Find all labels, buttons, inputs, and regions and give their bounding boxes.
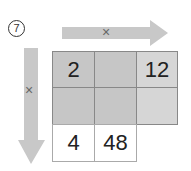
grid-cell: 48 [94, 124, 137, 162]
grid-cell [94, 87, 137, 125]
grid-cell [136, 87, 178, 125]
grid-cell: 4 [52, 124, 95, 162]
multiply-sign-horizontal: × [102, 24, 110, 40]
multiply-sign-vertical: × [25, 82, 33, 98]
right-arrow-icon [62, 20, 170, 48]
grid-cell [94, 51, 137, 88]
grid-cell [52, 87, 95, 125]
grid-cell: 12 [136, 51, 178, 88]
down-arrow-icon [18, 48, 46, 168]
problem-number: 7 [8, 20, 25, 37]
grid-cell: 2 [52, 51, 95, 88]
